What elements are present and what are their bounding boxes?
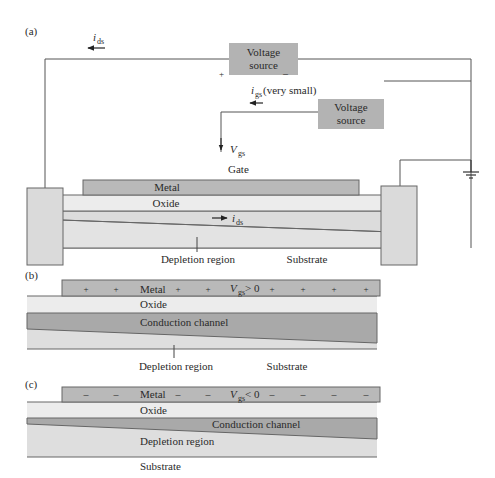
voltage-source-2-line2: source xyxy=(337,114,366,126)
panel-a-label: (a) xyxy=(25,25,38,38)
plus-sign-icon: + xyxy=(113,284,118,294)
voltage-source-2-line1: Voltage xyxy=(334,101,368,113)
oxide-label-a: Oxide xyxy=(153,197,180,209)
panel-c: (c) – – – – – – – – Metal V gs < 0 Oxide… xyxy=(25,378,380,472)
gate-label: Gate xyxy=(228,163,249,175)
mosfet-diagram: (a) i ds Voltage source + – xyxy=(0,0,495,478)
ids-channel-symbol: i xyxy=(232,212,235,224)
minus-sign-icon: – xyxy=(205,389,212,400)
ids-top-subscript: ds xyxy=(97,37,104,46)
minus-sign-icon: – xyxy=(269,389,276,400)
depletion-label-c: Depletion region xyxy=(140,435,215,447)
plus-sign-icon: + xyxy=(363,284,368,294)
plus-sign-icon: + xyxy=(83,284,88,294)
vgs-symbol: V xyxy=(230,143,238,155)
ids-top-annotation: i ds xyxy=(88,31,105,48)
ids-top-symbol: i xyxy=(93,31,96,43)
minus-sign-icon: – xyxy=(175,389,182,400)
metal-label-a: Metal xyxy=(154,181,180,193)
ids-channel-subscript: ds xyxy=(236,218,243,227)
plus-sign-icon: + xyxy=(175,284,180,294)
oxide-label-c: Oxide xyxy=(140,404,167,416)
substrate-label-c: Substrate xyxy=(140,460,181,472)
substrate-label-a: Substrate xyxy=(287,253,328,265)
voltage-source-1-line1: Voltage xyxy=(247,46,281,58)
oxide-label-b: Oxide xyxy=(140,298,167,310)
plus-sign-icon: + xyxy=(331,284,336,294)
igs-note: (very small) xyxy=(263,84,317,97)
substrate-label-b: Substrate xyxy=(267,360,308,372)
minus-sign-icon: – xyxy=(300,389,307,400)
igs-annotation: i gs (very small) xyxy=(250,84,317,103)
channel-label-c: Conduction channel xyxy=(212,418,300,430)
plus-sign-icon: + xyxy=(300,284,305,294)
plus-sign-icon: + xyxy=(269,284,274,294)
minus-sign-icon: – xyxy=(83,389,90,400)
panel-a: (a) i ds Voltage source + – xyxy=(25,25,479,265)
voltage-source-1-minus: – xyxy=(282,68,289,79)
vgs-b-relation: > 0 xyxy=(245,282,260,294)
igs-subscript: gs xyxy=(255,90,262,99)
channel-label-b: Conduction channel xyxy=(140,316,228,328)
ground-icon xyxy=(463,160,479,178)
voltage-source-1-plus: + xyxy=(219,69,224,79)
depletion-label-a: Depletion region xyxy=(161,253,236,265)
panel-b-label: (b) xyxy=(25,269,38,282)
minus-sign-icon: – xyxy=(331,389,338,400)
voltage-source-2: Voltage source xyxy=(318,99,384,129)
minus-sign-icon: – xyxy=(113,389,120,400)
voltage-source-1: Voltage source + – xyxy=(219,43,298,79)
vgs-subscript: gs xyxy=(238,149,245,158)
depletion-label-b: Depletion region xyxy=(139,360,214,372)
minus-sign-icon: – xyxy=(363,389,370,400)
plus-sign-icon: + xyxy=(205,284,210,294)
vgs-c-relation: < 0 xyxy=(245,388,260,400)
metal-label-b: Metal xyxy=(140,283,166,295)
panel-b: (b) + + + + + + + + Metal V gs > xyxy=(25,269,380,372)
voltage-source-1-line2: source xyxy=(249,59,278,71)
metal-label-c: Metal xyxy=(140,388,166,400)
igs-symbol: i xyxy=(251,84,254,96)
panel-c-label: (c) xyxy=(25,378,38,391)
mosfet-structure-b xyxy=(27,280,380,349)
